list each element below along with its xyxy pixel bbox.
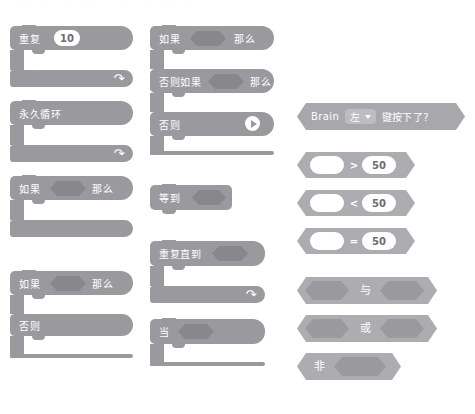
c-spine	[150, 344, 164, 362]
mouth-notch	[32, 125, 45, 129]
brain-prefix-label: Brain	[297, 111, 339, 122]
elseif-label: 否则如果	[159, 74, 201, 89]
block-brain-key-pressed[interactable]: Brain 左 键按下了?	[297, 103, 465, 130]
then-label-holder: 那么	[234, 26, 274, 50]
and-label: 与	[356, 285, 374, 296]
block-forever[interactable]: 永久循环 ↶	[10, 100, 133, 162]
then-label: 那么	[92, 276, 113, 291]
greater-than-symbol: >	[348, 161, 360, 171]
repeat-label: 重复	[19, 31, 40, 46]
then-label: 那么	[92, 181, 113, 196]
not-label: 非	[310, 361, 328, 372]
then-label: 那么	[234, 31, 255, 46]
loop-arrow-icon: ↶	[246, 288, 257, 301]
else-notch	[162, 112, 176, 116]
c-spine	[10, 125, 24, 145]
wait-condition-slot[interactable]	[192, 190, 226, 205]
mouth-notch	[32, 50, 45, 54]
c-spine	[10, 295, 24, 314]
if-condition-slot[interactable]	[50, 276, 86, 291]
foot-notch	[22, 70, 36, 74]
elseif-then-label: 那么	[250, 74, 271, 89]
if-else-foot	[10, 354, 133, 358]
or-right-slot[interactable]	[380, 319, 424, 338]
if-condition-slot[interactable]	[190, 31, 226, 46]
greater-left-input[interactable]	[310, 156, 344, 174]
c-spine-2	[10, 336, 24, 354]
c-spine-3	[150, 136, 164, 151]
block-if-then[interactable]: 如果 那么	[10, 175, 133, 237]
greater-right-input[interactable]: 50	[362, 156, 396, 174]
if-condition-slot[interactable]	[50, 181, 86, 196]
c-spine-1	[150, 50, 164, 69]
expand-arrow-icon[interactable]	[245, 116, 260, 131]
mouth-notch-2	[172, 93, 185, 97]
when-condition-slot[interactable]	[178, 324, 214, 339]
forever-label-bar: 永久循环	[10, 101, 133, 125]
block-repeat-until[interactable]: 重复直到 ↶	[150, 240, 265, 303]
if-elseif-foot	[150, 151, 274, 155]
equals-left-input[interactable]	[310, 232, 344, 250]
block-wait-until[interactable]: 等到	[150, 184, 232, 210]
or-left-slot[interactable]	[305, 319, 349, 338]
when-foot	[150, 362, 265, 366]
mouth-notch	[32, 200, 45, 204]
not-slot[interactable]	[334, 357, 386, 376]
mouth-notch-2	[32, 336, 45, 340]
brain-suffix-label: 键按下了?	[382, 109, 429, 124]
equals-symbol: =	[348, 237, 360, 247]
if-label: 如果	[19, 276, 40, 291]
mouth-notch-1	[172, 50, 185, 54]
if-label: 如果	[19, 181, 40, 196]
forever-label: 永久循环	[19, 106, 61, 121]
block-repeat[interactable]: 重复 10 ↶	[10, 25, 133, 87]
loop-arrow-icon: ↶	[114, 147, 125, 160]
elseif-notch	[162, 69, 176, 73]
block-when[interactable]: 当	[150, 318, 265, 366]
elseif-then-holder: 那么	[250, 69, 290, 93]
less-than-symbol: <	[348, 199, 360, 209]
else-label: 否则	[19, 318, 40, 333]
wait-until-label: 等到	[159, 190, 180, 205]
bottom-notch	[162, 210, 176, 214]
mouth-notch	[32, 295, 45, 299]
until-condition-slot[interactable]	[212, 246, 248, 261]
less-right-input[interactable]: 50	[362, 194, 396, 212]
or-label: 或	[356, 323, 374, 334]
if-foot	[10, 220, 133, 237]
loop-arrow-icon: ↶	[114, 72, 125, 85]
else-label: 否则	[159, 117, 180, 132]
chevron-down-icon	[365, 115, 371, 119]
then-label-holder: 那么	[92, 271, 132, 295]
key-dropdown-value: 左	[350, 109, 360, 124]
equals-right-input[interactable]: 50	[362, 232, 396, 250]
then-label-holder: 那么	[92, 176, 132, 200]
and-left-slot[interactable]	[305, 281, 349, 300]
mouth-notch-3	[172, 136, 185, 140]
else-notch	[22, 314, 36, 318]
clipped-header-text: · · ·· ···· ··· ·· · ···· ·· ·· ··· · ··…	[0, 0, 475, 8]
when-label: 当	[159, 324, 170, 339]
elseif-condition-slot[interactable]	[208, 74, 244, 89]
if-label: 如果	[159, 31, 180, 46]
block-if-elseif-else[interactable]: 如果 那么 否则如果 那么 否则	[150, 25, 274, 155]
c-spine	[10, 50, 24, 70]
repeat-count-input[interactable]: 10	[54, 30, 80, 46]
block-if-then-else[interactable]: 如果 那么 否则	[10, 270, 133, 358]
block-palette-canvas: · · ·· ···· ··· ·· · ···· ·· ·· ··· · ··…	[0, 0, 475, 414]
c-spine-2	[150, 93, 164, 112]
mouth-notch	[172, 344, 185, 348]
key-dropdown[interactable]: 左	[345, 109, 375, 124]
less-left-input[interactable]	[310, 194, 344, 212]
repeat-until-label: 重复直到	[159, 246, 201, 261]
c-spine	[10, 200, 24, 220]
mouth-notch	[172, 266, 185, 270]
and-right-slot[interactable]	[380, 281, 424, 300]
c-spine	[150, 266, 164, 286]
